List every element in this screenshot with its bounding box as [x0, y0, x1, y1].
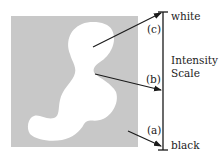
scale-title-line1: Intensity [171, 54, 218, 66]
intensity-scale-diagram: (c) (b) (a) white black Intensity Scale [0, 0, 219, 159]
label-b: (b) [146, 73, 161, 85]
scale-title-line2: Scale [171, 67, 200, 79]
scale-top-label: white [171, 10, 201, 22]
label-c: (c) [147, 23, 161, 35]
label-a: (a) [147, 124, 161, 136]
scale-bottom-label: black [171, 139, 200, 151]
